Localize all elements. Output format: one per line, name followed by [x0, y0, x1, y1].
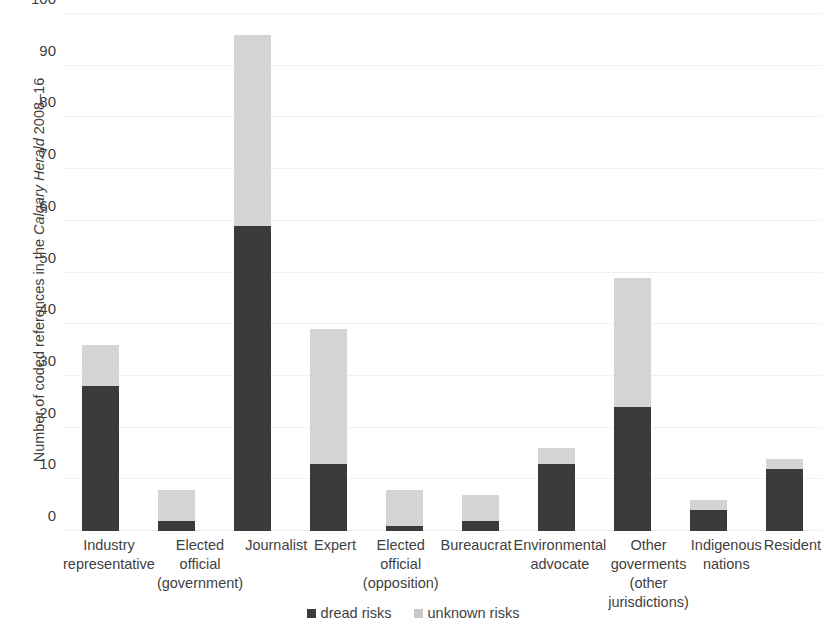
bar-segment-unknown-risks[interactable] [690, 500, 727, 510]
stacked-bar[interactable] [310, 329, 347, 531]
bar-segment-unknown-risks[interactable] [766, 459, 803, 469]
y-tick-label-100: 100 [4, 0, 56, 6]
stacked-bar[interactable] [766, 459, 803, 531]
bar-slot [214, 14, 290, 531]
y-tick-label-70: 70 [4, 146, 56, 161]
x-axis-label-6: Environmental advocate [513, 536, 608, 574]
bar-segment-unknown-risks[interactable] [310, 329, 347, 463]
bar-segment-unknown-risks[interactable] [386, 490, 423, 526]
x-axis-label-3: Expert [308, 536, 362, 555]
bar-slot [62, 14, 138, 531]
x-axis-label-2: Journalist [244, 536, 308, 555]
stacked-bar[interactable] [462, 495, 499, 531]
bar-segment-dread-risks[interactable] [766, 469, 803, 531]
x-axis-label-0: Industry representative [62, 536, 156, 574]
bar-segment-dread-risks[interactable] [690, 510, 727, 531]
stacked-bar[interactable] [538, 448, 575, 531]
legend-item-unknown[interactable]: unknown risks [414, 605, 520, 621]
y-tick-label-80: 80 [4, 94, 56, 109]
x-axis-label-8: Indigenous nations [690, 536, 763, 574]
x-axis-category-labels: Industry representativeElected official … [62, 536, 822, 612]
x-axis-label-7: Other goverments (other jurisdictions) [607, 536, 690, 612]
bar-slot [366, 14, 442, 531]
bar-segment-dread-risks[interactable] [234, 226, 271, 531]
y-tick-label-30: 30 [4, 353, 56, 368]
x-axis-label-5: Bureaucrat [440, 536, 513, 555]
x-axis-baseline [62, 531, 822, 532]
bar-segment-unknown-risks[interactable] [462, 495, 499, 521]
bar-slot [290, 14, 366, 531]
stacked-bar[interactable] [386, 490, 423, 531]
legend-item-dread[interactable]: dread risks [307, 605, 392, 621]
bar-segment-unknown-risks[interactable] [158, 490, 195, 521]
bar-segment-dread-risks[interactable] [386, 526, 423, 531]
y-tick-label-20: 20 [4, 405, 56, 420]
bar-segment-unknown-risks[interactable] [538, 448, 575, 464]
stacked-bar[interactable] [82, 345, 119, 531]
bar-segment-dread-risks[interactable] [614, 407, 651, 531]
bar-segment-unknown-risks[interactable] [614, 278, 651, 407]
y-tick-label-50: 50 [4, 250, 56, 265]
y-tick-label-40: 40 [4, 301, 56, 316]
x-axis-label-1: Elected official (government) [156, 536, 244, 593]
x-axis-label-9: Resident [763, 536, 822, 555]
y-axis-tick-labels: 0102030405060708090100 [0, 14, 56, 531]
bar-slot [518, 14, 594, 531]
bar-segment-dread-risks[interactable] [538, 464, 575, 531]
y-tick-label-10: 10 [4, 456, 56, 471]
x-axis-label-4: Elected official (opposition) [362, 536, 440, 593]
bar-slot [594, 14, 670, 531]
bar-segment-dread-risks[interactable] [310, 464, 347, 531]
chart-legend: dread risksunknown risks [0, 605, 826, 621]
y-tick-label-60: 60 [4, 198, 56, 213]
bar-slot [442, 14, 518, 531]
bar-slot [138, 14, 214, 531]
stacked-bar[interactable] [614, 278, 651, 531]
legend-label: dread risks [321, 605, 392, 621]
stacked-bar[interactable] [690, 500, 727, 531]
bar-slot [746, 14, 822, 531]
y-tick-label-90: 90 [4, 43, 56, 58]
bar-segment-unknown-risks[interactable] [234, 35, 271, 226]
bar-group [62, 14, 822, 531]
y-tick-label-0: 0 [4, 508, 56, 523]
stacked-bar[interactable] [158, 490, 195, 531]
bar-segment-unknown-risks[interactable] [82, 345, 119, 386]
bar-segment-dread-risks[interactable] [158, 521, 195, 531]
bar-slot [670, 14, 746, 531]
stacked-bar[interactable] [234, 35, 271, 531]
legend-swatch-icon [414, 609, 423, 618]
stacked-bar-chart: Number of coded references in the Calgar… [0, 0, 826, 632]
legend-swatch-icon [307, 609, 316, 618]
bar-segment-dread-risks[interactable] [82, 386, 119, 531]
bar-segment-dread-risks[interactable] [462, 521, 499, 531]
legend-label: unknown risks [428, 605, 520, 621]
